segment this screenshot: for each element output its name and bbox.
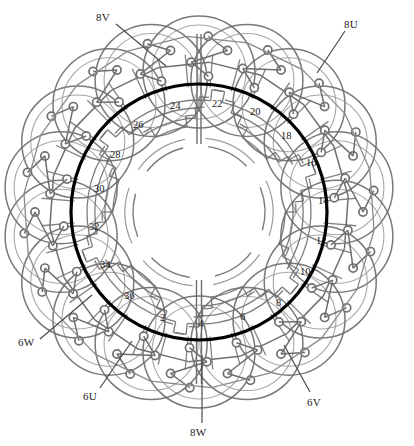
terminal-label-6u: 6U — [83, 390, 97, 402]
node-connector — [95, 320, 138, 349]
node-connector — [50, 176, 54, 228]
node-connector — [96, 354, 151, 381]
hub-arc — [125, 188, 132, 243]
hub-arc — [215, 253, 251, 276]
slot-number: 28 — [110, 149, 121, 160]
node-connector — [187, 36, 248, 42]
coil-node — [232, 339, 240, 347]
slot-number: 24 — [170, 100, 181, 111]
terminal-label-8w: 8W — [190, 426, 206, 438]
arc-riser — [108, 130, 116, 137]
inner-connection-group — [82, 34, 316, 384]
arc-shoulder — [186, 115, 194, 116]
node-connector — [28, 255, 53, 311]
hub-arc — [208, 147, 246, 167]
slot-number: 18 — [281, 130, 292, 141]
terminal-label-6v: 6V — [307, 396, 321, 408]
hub-arc — [266, 181, 273, 236]
arc-riser — [222, 92, 224, 103]
slot-lead — [210, 55, 213, 88]
coil-node — [60, 222, 68, 230]
slot-number: 32 — [89, 221, 100, 232]
arc-shoulder — [82, 250, 86, 260]
node-connector — [345, 196, 349, 248]
slot-lead — [324, 223, 357, 226]
slot-number: 36 — [124, 290, 135, 301]
arc-riser — [186, 323, 187, 334]
slot-number: 4 — [198, 318, 203, 329]
outer-coil-group — [5, 16, 393, 408]
arc-shoulder — [212, 90, 223, 92]
terminal-label-8u: 8U — [344, 18, 358, 30]
arc-riser — [99, 140, 108, 146]
slot-number: 34 — [100, 259, 111, 270]
terminal-label-8v: 8V — [96, 11, 110, 23]
slot-lead — [185, 337, 188, 370]
winding-diagram-canvas: 8V 8U 6W 6U 8W 6V 2468101214161820222426… — [0, 0, 414, 446]
node-connector — [345, 114, 370, 170]
slot-number: 20 — [250, 106, 261, 117]
hub-arc — [133, 194, 138, 237]
node-connector — [248, 43, 303, 70]
slot-number: 10 — [300, 266, 311, 277]
coil-loop — [143, 16, 255, 128]
slot-number: 2 — [160, 312, 165, 323]
slot-number: 14 — [318, 195, 329, 206]
coil-node — [140, 332, 148, 340]
node-connector — [127, 36, 186, 51]
arc-riser — [82, 247, 92, 250]
terminal-label-6w: 6W — [18, 336, 34, 348]
slot-number: 16 — [306, 157, 317, 168]
hub-arc — [213, 254, 259, 284]
node-connector — [260, 75, 303, 104]
hub-arc — [138, 139, 184, 169]
node-connector — [243, 69, 281, 70]
arc-riser — [290, 278, 299, 284]
slot-number: 6 — [240, 311, 245, 322]
coil-node — [341, 174, 349, 182]
slot-number: 22 — [212, 98, 223, 109]
arc-riser — [282, 287, 290, 294]
slot-number: 30 — [94, 183, 105, 194]
slot-number: 26 — [133, 119, 144, 130]
arc-riser — [173, 322, 175, 333]
slot-lead — [42, 198, 75, 201]
slot-lead — [312, 265, 342, 279]
arc-shoulder — [173, 332, 184, 334]
hub-arc — [147, 148, 183, 171]
slot-number: 12 — [316, 235, 327, 246]
hub-arc — [260, 187, 265, 230]
inner-arc — [237, 126, 278, 162]
stator-winding-figure — [0, 0, 414, 446]
node-connector — [211, 373, 270, 388]
hub-arc — [152, 258, 190, 278]
arc-shoulder — [204, 308, 212, 309]
arc-riser — [306, 174, 316, 177]
slot-number: 8 — [276, 297, 281, 308]
slot-lead — [42, 223, 75, 226]
slot-lead — [56, 145, 86, 159]
